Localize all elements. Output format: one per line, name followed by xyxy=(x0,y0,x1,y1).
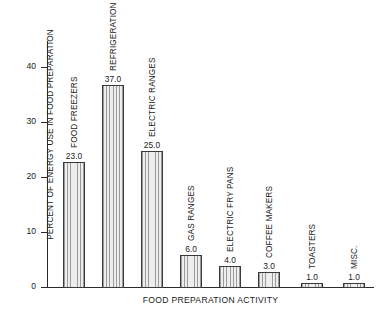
y-tick-0: 0 xyxy=(41,287,48,288)
bar-label-coffee-makers: COFFEE MAKERS xyxy=(265,185,274,257)
bar-misc: 1.0 MISC. xyxy=(343,283,365,289)
bar-chart: PERCENT OF ENERGY USE IN FOOD PREPARATIO… xyxy=(0,0,381,317)
y-tick-30: 30 xyxy=(41,122,48,123)
bar-label-gas-ranges: GAS RANGES xyxy=(187,185,196,241)
y-tick-label-40: 40 xyxy=(26,61,36,71)
y-tick-10: 10 xyxy=(41,232,48,233)
bar-value-misc: 1.0 xyxy=(348,272,360,282)
bar-refrigeration: 37.0 REFRIGERATION xyxy=(102,85,124,288)
bar-value-coffee-makers: 3.0 xyxy=(263,261,275,271)
x-axis-label: FOOD PREPARATION ACTIVITY xyxy=(47,295,374,305)
bar-electric-fry-pans: 4.0 ELECTRIC FRY PANS xyxy=(219,266,241,288)
y-tick-40: 40 xyxy=(41,67,48,68)
bar-toasters: 1.0 TOASTERS xyxy=(301,283,323,289)
plot-area: 0 10 20 30 40 23.0 FOOD FREEZERS 37.0 RE… xyxy=(47,41,374,288)
bar-coffee-makers: 3.0 COFFEE MAKERS xyxy=(258,272,280,289)
bar-value-electric-ranges: 25.0 xyxy=(144,140,160,150)
bar-value-toasters: 1.0 xyxy=(306,272,318,282)
bar-electric-ranges: 25.0 ELECTRIC RANGES xyxy=(141,151,163,288)
bar-value-food-freezers: 23.0 xyxy=(66,151,82,161)
y-axis-line xyxy=(47,41,48,288)
y-tick-label-10: 10 xyxy=(26,226,36,236)
x-axis-line xyxy=(47,287,374,288)
y-tick-20: 20 xyxy=(41,177,48,178)
bar-label-food-freezers: FOOD FREEZERS xyxy=(70,76,79,148)
bar-value-electric-fry-pans: 4.0 xyxy=(224,255,236,265)
bar-label-toasters: TOASTERS xyxy=(308,223,317,268)
bar-value-refrigeration: 37.0 xyxy=(105,74,121,84)
bar-food-freezers: 23.0 FOOD FREEZERS xyxy=(63,162,85,288)
bar-value-gas-ranges: 6.0 xyxy=(185,244,197,254)
bar-label-refrigeration: REFRIGERATION xyxy=(109,2,118,71)
y-tick-label-20: 20 xyxy=(26,171,36,181)
y-tick-label-30: 30 xyxy=(26,116,36,126)
bar-label-electric-fry-pans: ELECTRIC FRY PANS xyxy=(226,167,235,252)
bar-gas-ranges: 6.0 GAS RANGES xyxy=(180,255,202,288)
bar-label-electric-ranges: ELECTRIC RANGES xyxy=(148,57,157,137)
bar-label-misc: MISC. xyxy=(350,245,359,269)
y-tick-label-0: 0 xyxy=(31,281,36,291)
